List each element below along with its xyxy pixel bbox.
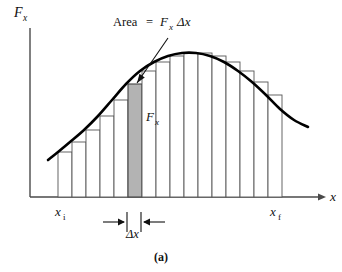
riemann-rectangle	[156, 62, 170, 197]
figure-caption: (a)	[154, 250, 168, 264]
riemann-rectangle	[184, 53, 198, 197]
bar-force-label-subscript: x	[154, 117, 159, 127]
riemann-rectangle	[198, 53, 212, 197]
x-axis-label: x	[329, 189, 336, 204]
area-label-force-subscript: x	[168, 22, 173, 32]
riemann-rectangle	[114, 100, 128, 197]
y-axis-label-main: F	[13, 5, 23, 20]
force-vs-position-chart: F x x Area = F x Δx F x Δx x i x	[0, 0, 342, 272]
bar-force-label-main: F	[145, 109, 155, 124]
area-label-force-symbol: F	[159, 14, 169, 29]
area-label-delta-x: Δx	[176, 14, 191, 29]
riemann-rectangle	[72, 142, 86, 197]
y-axis-label-subscript: x	[22, 13, 28, 23]
delta-x-label: Δx	[125, 227, 139, 241]
x-initial-label-main: x	[54, 204, 61, 219]
x-final-label-subscript: f	[278, 212, 281, 222]
area-label-word: Area	[113, 15, 138, 29]
riemann-rectangle	[58, 152, 72, 197]
riemann-rectangle	[226, 62, 240, 197]
highlighted-rectangle	[128, 84, 142, 197]
riemann-rectangle	[212, 56, 226, 197]
delta-x-label-text: Δx	[125, 227, 139, 241]
riemann-rectangle	[254, 82, 268, 197]
area-label-equals: =	[146, 15, 153, 29]
figure-container: F x x Area = F x Δx F x Δx x i x	[0, 0, 342, 272]
riemann-rectangle	[100, 116, 114, 197]
riemann-rectangle	[86, 130, 100, 197]
riemann-rectangle	[240, 71, 254, 197]
riemann-rectangle	[142, 71, 156, 197]
x-final-label-main: x	[269, 204, 276, 219]
riemann-rectangle	[170, 56, 184, 197]
